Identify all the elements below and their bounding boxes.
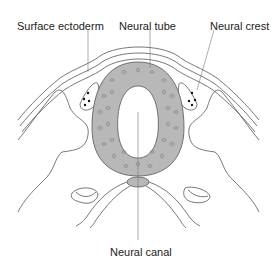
- label-neural-tube: Neural tube: [119, 20, 176, 32]
- label-surface-ectoderm: Surface ectoderm: [17, 20, 104, 32]
- left-lobe: [71, 188, 98, 203]
- label-neural-canal: Neural canal: [110, 246, 172, 258]
- neural-tube-diagram: [0, 0, 277, 266]
- leader-neural-crest: [197, 30, 214, 90]
- right-lobe: [184, 187, 210, 203]
- label-neural-crest: Neural crest: [210, 20, 269, 32]
- right-mesoderm-outline: [189, 90, 259, 212]
